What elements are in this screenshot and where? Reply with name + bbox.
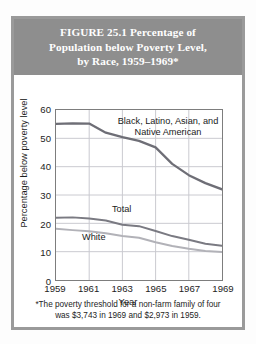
x-tick-label: 1959 [44, 283, 65, 294]
figure-container: FIGURE 25.1 Percentage of Population bel… [11, 16, 245, 330]
title-line-2: Population below Poverty Level, [49, 41, 207, 53]
y-tick-label: 10 [40, 247, 51, 258]
x-tick-label: 1963 [112, 283, 133, 294]
footnote-line-2: was $3,743 in 1969 and $2,973 in 1959. [55, 311, 201, 320]
plot-frame: Black, Latino, Asian, andNative American… [55, 109, 223, 281]
series-label-total: Total [112, 204, 131, 215]
x-tick-label: 1969 [212, 283, 233, 294]
series-label-white: White [82, 232, 106, 243]
series-line [56, 229, 222, 252]
series-lines [56, 123, 222, 252]
page-title: FIGURE 25.1 Percentage of Population bel… [43, 25, 213, 68]
chart-area: Percentage below poverty level 010203040… [14, 75, 242, 277]
figure-title-band: FIGURE 25.1 Percentage of Population bel… [14, 19, 242, 75]
footnote-line-1: *The poverty threshold for a non-farm fa… [35, 300, 220, 309]
y-tick-label: 60 [40, 104, 51, 115]
y-tick-label: 40 [40, 161, 51, 172]
y-axis-ticks: 0102030405060 [30, 75, 53, 251]
title-line-1: FIGURE 25.1 Percentage of [60, 26, 196, 38]
y-tick-label: 50 [40, 132, 51, 143]
title-line-3: by Race, 1959–1969* [77, 55, 179, 67]
x-axis-ticks: 195919611963196519671969 [55, 283, 223, 297]
x-tick-label: 1967 [179, 283, 200, 294]
y-axis-label-text: Percentage below poverty level [19, 98, 29, 227]
x-tick-label: 1961 [78, 283, 99, 294]
series-label-minority: Black, Latino, Asian, andNative American [112, 116, 224, 137]
x-tick-label: 1965 [145, 283, 166, 294]
figure-footnote: *The poverty threshold for a non-farm fa… [14, 299, 242, 321]
y-tick-label: 20 [40, 218, 51, 229]
y-tick-label: 30 [40, 190, 51, 201]
